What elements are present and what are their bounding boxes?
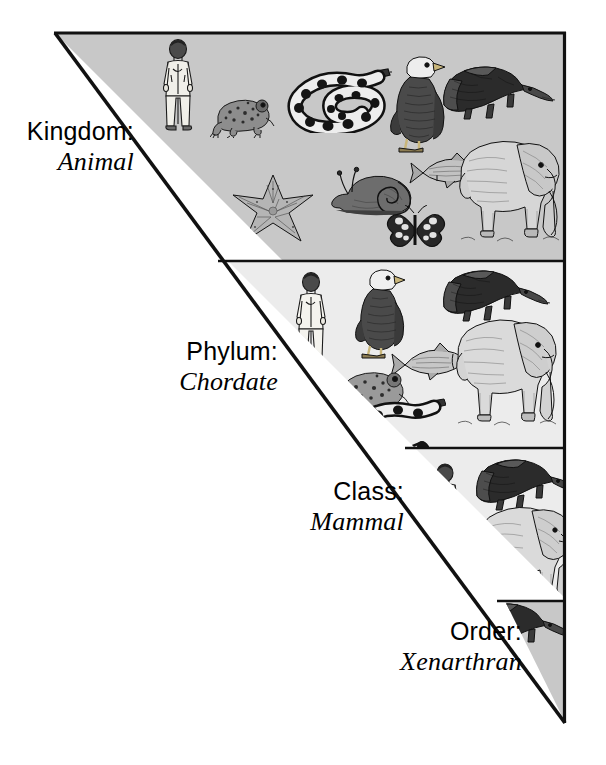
organism-butterfly bbox=[385, 205, 447, 253]
rank-name-class: Class: bbox=[200, 477, 404, 507]
rank-label-phylum: Phylum: Chordate bbox=[60, 337, 278, 397]
organism-human bbox=[155, 38, 201, 133]
organism-snake bbox=[284, 65, 392, 133]
rank-label-kingdom: Kingdom: Animal bbox=[0, 117, 134, 177]
organism-elephant bbox=[450, 309, 562, 433]
rank-name-kingdom: Kingdom: bbox=[0, 117, 134, 147]
rank-name-phylum: Phylum: bbox=[60, 337, 278, 367]
rank-label-class: Class: Mammal bbox=[200, 477, 404, 537]
rank-value-order: Xenarthran bbox=[290, 647, 522, 678]
organism-snake bbox=[338, 397, 446, 448]
organism-elephant bbox=[453, 131, 565, 249]
organism-human bbox=[288, 271, 334, 366]
taxonomy-triangle-diagram: Kingdom: Animal Phylum: Chordate Class: … bbox=[0, 0, 606, 765]
organism-elephant bbox=[473, 498, 565, 601]
rank-value-class: Mammal bbox=[200, 507, 404, 538]
organism-frog bbox=[210, 90, 280, 138]
rank-label-order: Order: Xenarthran bbox=[290, 617, 522, 677]
rank-name-order: Order: bbox=[290, 617, 522, 647]
rank-value-phylum: Chordate bbox=[60, 367, 278, 398]
band-phylum bbox=[228, 261, 565, 448]
rank-value-kingdom: Animal bbox=[0, 147, 134, 178]
band-class bbox=[415, 448, 565, 601]
organism-anteater bbox=[440, 61, 555, 123]
organism-human bbox=[423, 462, 467, 554]
organism-starfish bbox=[227, 169, 319, 247]
